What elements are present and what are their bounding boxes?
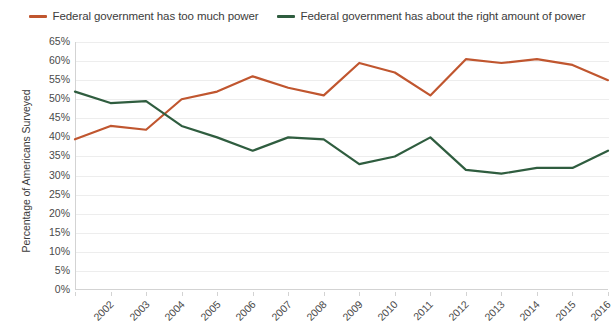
- legend-label: Federal government has too much power: [53, 10, 259, 22]
- x-axis-tick-mark: [466, 292, 467, 296]
- x-axis-tick-mark: [395, 292, 396, 296]
- y-axis-tick-labels: 65%60%55%50%45%40%35%30%25%20%15%10%5%0%: [30, 42, 70, 290]
- y-axis-tick-label: 60%: [34, 54, 70, 66]
- plot-area: [75, 42, 608, 290]
- chart-legend: Federal government has too much power Fe…: [0, 6, 614, 26]
- x-axis-tick-label: 2004: [162, 298, 187, 323]
- x-axis-tick-label: 2011: [410, 298, 434, 322]
- x-axis-tick-mark: [359, 292, 360, 296]
- series-line: [75, 59, 608, 139]
- x-axis-tick-label: 2007: [268, 298, 293, 323]
- x-axis-tick-mark: [111, 292, 112, 296]
- x-axis-tick-mark: [430, 292, 431, 296]
- x-axis-tick-mark: [608, 292, 609, 296]
- legend-swatch-icon: [277, 15, 295, 18]
- y-axis-tick-label: 30%: [34, 169, 70, 181]
- legend-item-right-amount-power[interactable]: Federal government has about the right a…: [277, 10, 586, 22]
- x-axis-tick-mark: [146, 292, 147, 296]
- y-axis-tick-label: 50%: [34, 92, 70, 104]
- x-axis-tick-label: 2002: [91, 298, 116, 323]
- y-axis-tick-label: 0%: [34, 283, 70, 295]
- x-axis-tick-mark: [217, 292, 218, 296]
- y-axis-tick-label: 35%: [34, 149, 70, 161]
- legend-label: Federal government has about the right a…: [301, 10, 586, 22]
- y-axis-tick-label: 15%: [34, 226, 70, 238]
- x-axis-tick-mark: [572, 292, 573, 296]
- x-axis-tick-label: 2008: [304, 298, 329, 323]
- series-line: [75, 92, 608, 174]
- legend-swatch-icon: [29, 15, 47, 18]
- y-axis-tick-label: 40%: [34, 130, 70, 142]
- y-axis-tick-label: 65%: [34, 35, 70, 47]
- y-axis-tick-label: 55%: [34, 73, 70, 85]
- x-axis-tick-label: 2006: [233, 298, 258, 323]
- x-axis-tick-label: 2015: [553, 298, 578, 323]
- x-axis-tick-mark: [253, 292, 254, 296]
- x-axis-tick-label: 2013: [482, 298, 507, 323]
- y-axis-tick-label: 25%: [34, 188, 70, 200]
- x-axis-tick-mark: [75, 292, 76, 296]
- x-axis-tick-label: 2014: [517, 298, 542, 323]
- x-axis-tick-mark: [288, 292, 289, 296]
- series-lines: [75, 42, 608, 290]
- x-axis-tick-mark: [182, 292, 183, 296]
- x-axis-tick-mark: [324, 292, 325, 296]
- x-axis-tick-label: 2010: [375, 298, 400, 323]
- x-axis-tick-mark: [537, 292, 538, 296]
- y-axis-tick-label: 10%: [34, 245, 70, 257]
- x-axis-tick-labels: 2002200320042005200620072008200920102011…: [75, 292, 608, 327]
- x-axis-tick-label: 2016: [588, 298, 613, 323]
- x-axis-tick-label: 2009: [340, 298, 365, 323]
- line-chart: Federal government has too much power Fe…: [0, 0, 614, 327]
- y-axis-tick-label: 20%: [34, 207, 70, 219]
- y-axis-tick-label: 5%: [34, 264, 70, 276]
- x-axis-tick-label: 2012: [446, 298, 471, 323]
- legend-item-too-much-power[interactable]: Federal government has too much power: [29, 10, 259, 22]
- y-axis-tick-label: 45%: [34, 111, 70, 123]
- x-axis-tick-label: 2005: [197, 298, 222, 323]
- x-axis-tick-label: 2003: [126, 298, 151, 323]
- x-axis-tick-mark: [501, 292, 502, 296]
